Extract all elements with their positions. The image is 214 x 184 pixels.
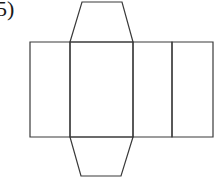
face-1-rectangle (30, 42, 70, 137)
prism-net-diagram (0, 0, 214, 184)
bottom-flap-trapezoid (70, 137, 133, 176)
face-4-rectangle (172, 42, 213, 137)
face-2-rectangle (70, 42, 133, 137)
face-3-rectangle (133, 42, 172, 137)
top-flap-trapezoid (70, 2, 133, 42)
